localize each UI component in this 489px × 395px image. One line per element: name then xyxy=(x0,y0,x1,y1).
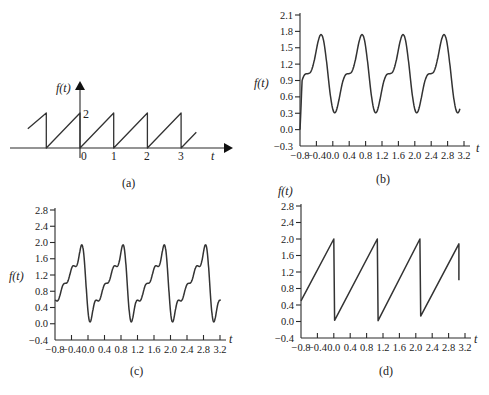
x-tick-label: −0.4 xyxy=(62,344,82,355)
y-tick-label: 0.9 xyxy=(280,75,293,86)
y-tick-label: 2.8 xyxy=(281,201,294,212)
y-tick-label: 2.1 xyxy=(280,10,293,21)
x-tick-label: 1.6 xyxy=(393,342,406,353)
y-tick-label: 0.3 xyxy=(280,108,293,119)
x-axis-label: t xyxy=(229,332,233,346)
x-tick-label: 2.8 xyxy=(441,150,454,161)
x-tick-label: 1.6 xyxy=(147,344,160,355)
x-axis-label: t xyxy=(211,149,215,163)
x-tick-label: 2.8 xyxy=(197,344,210,355)
panel-d: f(t) t (d) −0.40.00.40.81.21.62.02.42.8−… xyxy=(275,184,478,378)
x-tick-label: 0.4 xyxy=(344,342,358,353)
y-axis-label: f(t) xyxy=(254,76,269,90)
caption-d: (d) xyxy=(379,364,393,378)
x-tick-label: 0.8 xyxy=(359,150,372,161)
x-tick-label: 1.2 xyxy=(131,344,144,355)
signal-curve xyxy=(301,239,459,321)
x-tick-2: 2 xyxy=(144,150,150,162)
x-tick-label: 0.8 xyxy=(360,342,373,353)
y-tick-label: 2.4 xyxy=(35,221,49,232)
figure-canvas: f(t) 2 0 1 2 3 t (a) f(t) t (b) −0.30.00… xyxy=(0,0,489,395)
caption-c: (c) xyxy=(130,364,143,378)
panel-a: f(t) 2 0 1 2 3 t (a) xyxy=(10,81,233,190)
x-tick-label: −0.4 xyxy=(307,150,327,161)
x-tick-label: −0.4 xyxy=(308,342,328,353)
x-tick-label: 0.0 xyxy=(327,342,340,353)
x-tick-label: 2.0 xyxy=(408,150,421,161)
x-tick-label: 2.4 xyxy=(180,344,194,355)
caption-a: (a) xyxy=(122,176,135,190)
y-tick-label: 1.2 xyxy=(280,59,293,70)
x-tick-label: 1.6 xyxy=(392,150,405,161)
y-axis-label: f(t) xyxy=(9,269,24,283)
x-tick-label: 1.2 xyxy=(375,150,388,161)
x-tick-label: 2.4 xyxy=(425,150,439,161)
panel-b: f(t) t (b) −0.30.00.30.60.91.21.51.82.1−… xyxy=(254,10,480,187)
x-tick-label: 0.0 xyxy=(326,150,339,161)
y-axis-label: f(t) xyxy=(56,81,71,95)
y-tick-label: 1.2 xyxy=(281,267,294,278)
x-axis-label: t xyxy=(474,332,478,346)
y-tick-label: 0.8 xyxy=(281,283,294,294)
y-tick-label: 2.0 xyxy=(35,237,48,248)
x-tick-label: 2.0 xyxy=(164,344,177,355)
y-axis-arrow-icon xyxy=(75,81,85,90)
signal-curve xyxy=(300,35,460,130)
y-tick-label: 0.0 xyxy=(280,124,293,135)
x-tick-label: 2.4 xyxy=(426,342,440,353)
x-tick-label: 0.4 xyxy=(98,344,112,355)
y-tick-label: 1.6 xyxy=(281,250,294,261)
sawtooth-curve xyxy=(28,113,197,148)
x-tick-label: 2.8 xyxy=(442,342,455,353)
y-tick-label: 1.6 xyxy=(35,253,48,264)
x-axis-label: t xyxy=(476,141,480,155)
x-tick-label: 0.8 xyxy=(114,344,127,355)
panel-c: f(t) t (c) −0.40.00.40.81.21.62.02.42.8−… xyxy=(9,205,233,379)
y-tick-label: 2.4 xyxy=(281,217,295,228)
y-tick-label: 2.8 xyxy=(35,205,48,216)
caption-b: (b) xyxy=(376,172,390,186)
y-tick-label: 0.0 xyxy=(281,316,294,327)
x-tick-label: 3.2 xyxy=(458,342,471,353)
x-tick-label: 3.2 xyxy=(457,150,470,161)
y-tick-label: 1.8 xyxy=(280,26,293,37)
x-tick-0: 0 xyxy=(81,150,87,162)
y-tick-label: 0.8 xyxy=(35,286,48,297)
x-tick-label: 1.2 xyxy=(376,342,389,353)
y-tick-label: 1.2 xyxy=(35,270,48,281)
x-tick-3: 3 xyxy=(178,150,184,162)
y-tick-label: 2.0 xyxy=(281,234,294,245)
x-tick-label: 3.2 xyxy=(213,344,226,355)
y-tick-2: 2 xyxy=(83,107,89,121)
y-tick-label: 0.6 xyxy=(280,91,293,102)
signal-curve xyxy=(55,245,221,322)
y-tick-label: 1.5 xyxy=(280,42,293,53)
x-tick-1: 1 xyxy=(111,150,117,162)
x-tick-label: 0.4 xyxy=(343,150,357,161)
y-tick-label: 0.0 xyxy=(35,318,48,329)
x-tick-label: 0.0 xyxy=(81,344,94,355)
x-axis-arrow-icon xyxy=(224,143,233,153)
y-axis-label: f(t) xyxy=(278,184,293,198)
x-tick-label: 2.0 xyxy=(409,342,422,353)
y-tick-label: 0.4 xyxy=(35,302,49,313)
y-tick-label: 0.4 xyxy=(281,300,295,311)
